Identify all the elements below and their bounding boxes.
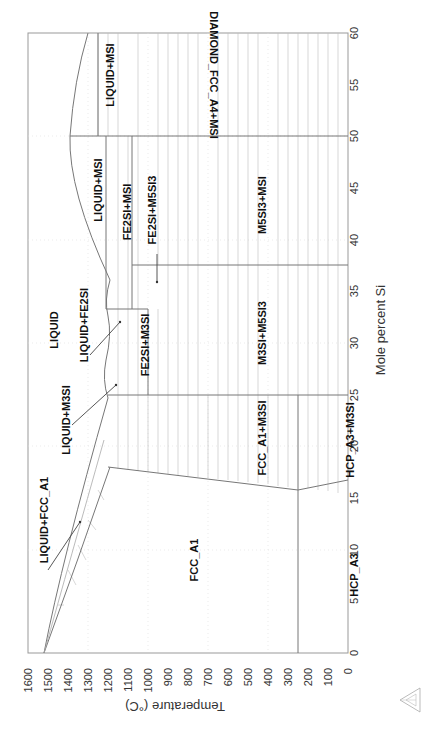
svg-text:0: 0 [342, 668, 354, 674]
svg-text:20: 20 [348, 440, 360, 452]
svg-text:50: 50 [348, 130, 360, 142]
temperature-axis-label: Temperature (°C) [125, 699, 225, 714]
label-liquid: LIQUID [48, 311, 60, 348]
label-liquid-msi-2: LIQUID+MSI [104, 43, 116, 106]
svg-text:100: 100 [322, 668, 334, 686]
si-axis-label: Mole percent Si [373, 285, 388, 375]
label-fcc-a1: FCC_A1 [188, 539, 200, 582]
svg-text:35: 35 [348, 285, 360, 297]
svg-text:1000: 1000 [142, 668, 154, 692]
label-fe2si-msi: FE2SI+MSI [121, 184, 133, 241]
label-liquid-fcc: LIQUID+FCC_A1 [38, 477, 50, 564]
svg-text:25: 25 [348, 389, 360, 401]
label-liquid-msi-1: LIQUID+MSI [92, 158, 104, 221]
svg-text:5: 5 [348, 598, 360, 604]
svg-text:40: 40 [348, 234, 360, 246]
svg-text:1600: 1600 [22, 668, 34, 692]
label-m3si-m5si3: M3SI+M5SI3 [256, 301, 268, 365]
svg-text:0: 0 [348, 650, 360, 656]
svg-text:1200: 1200 [102, 668, 114, 692]
svg-text:1500: 1500 [42, 668, 54, 692]
svg-text:300: 300 [282, 668, 294, 686]
svg-text:60: 60 [348, 27, 360, 39]
label-fcc-m3si: FCC_A1+M3SI [256, 401, 268, 476]
svg-text:45: 45 [348, 182, 360, 194]
svg-text:1300: 1300 [82, 668, 94, 692]
svg-text:1100: 1100 [122, 668, 134, 692]
svg-text:1400: 1400 [62, 668, 74, 692]
svg-text:700: 700 [202, 668, 214, 686]
thermo-calc-logo-icon [400, 688, 420, 712]
label-liquid-fe2si: LIQUID+FE2SI [78, 288, 90, 362]
svg-text:200: 200 [302, 668, 314, 686]
phase-diagram-svg: LIQUID LIQUID+FCC_A1 LIQUID+M3SI LIQUID+… [0, 0, 435, 732]
temperature-axis: 0 100 200 300 400 500 600 700 800 900 10… [22, 668, 354, 714]
label-m5si3-msi: M5SI3+MSI [256, 176, 268, 234]
label-diamond-msi: DIAMOND_FCC_A4+MSI [208, 11, 220, 138]
label-liquid-m3si: LIQUID+M3SI [60, 385, 72, 454]
svg-text:10: 10 [348, 544, 360, 556]
svg-text:500: 500 [242, 668, 254, 686]
svg-text:800: 800 [182, 668, 194, 686]
svg-text:55: 55 [348, 79, 360, 91]
label-fe2si-m3si: FE2SI+M3SI [139, 314, 151, 377]
svg-text:15: 15 [348, 492, 360, 504]
svg-text:600: 600 [222, 668, 234, 686]
svg-text:900: 900 [162, 668, 174, 686]
label-fe2si-m5si3: FE2SI+M5SI3 [146, 176, 158, 245]
svg-text:30: 30 [348, 337, 360, 349]
svg-text:400: 400 [262, 668, 274, 686]
label-hcp-a3: HCP_A3 [348, 553, 360, 596]
